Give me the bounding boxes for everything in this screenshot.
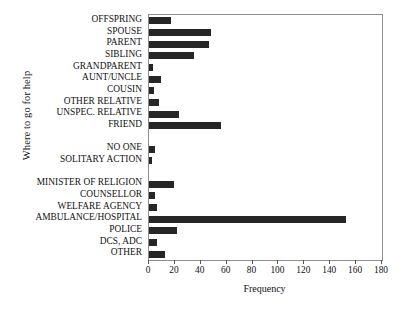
bar [149,29,211,36]
x-axis-tick-mark [148,260,149,264]
x-axis-tick-label: 180 [361,265,401,275]
bar [149,216,346,223]
bar [149,239,157,246]
bar [149,192,155,199]
y-axis-tick-label: PARENT [27,38,142,47]
bar [149,146,155,153]
y-axis-tick-label: OTHER [27,248,142,257]
bar [149,76,161,83]
y-axis-tick-label: COUSIN [27,85,142,94]
y-axis-tick-label: SIBLING [27,50,142,59]
x-axis-tick-mark [355,260,356,264]
y-axis-tick-label: NO ONE [27,143,142,152]
x-axis-tick-mark [174,260,175,264]
bar [149,227,177,234]
x-axis-tick-mark [277,260,278,264]
bar-series [149,15,382,260]
y-axis-tick-label: SPOUSE [27,27,142,36]
y-axis-tick-label: FRIEND [27,120,142,129]
y-axis-tick-label: WELFARE AGENCY [27,202,142,211]
x-axis-ticks: 020406080100120140160180 [148,260,381,282]
bar [149,99,159,106]
bar [149,122,221,129]
y-axis-tick-label: UNSPEC. RELATIVE [27,108,142,117]
bar-chart-figure: Where to go for help OFFSPRINGSPOUSEPARE… [0,0,406,310]
y-axis-tick-label: GRANDPARENT [27,62,142,71]
bar [149,87,154,94]
y-axis-category-labels: OFFSPRINGSPOUSEPARENTSIBLINGGRANDPARENTA… [30,14,145,259]
x-axis-tick-mark [381,260,382,264]
bar [149,157,152,164]
y-axis-tick-label: AUNT/UNCLE [27,73,142,82]
y-axis-tick-label: OFFSPRING [27,15,142,24]
x-axis-tick-mark [226,260,227,264]
x-axis-tick-mark [200,260,201,264]
y-axis-tick-label: OTHER RELATIVE [27,97,142,106]
bar [149,111,179,118]
bar [149,64,153,71]
bar [149,41,209,48]
y-axis-tick-label: COUNSELLOR [27,190,142,199]
y-axis-tick-label: MINISTER OF RELIGION [27,178,142,187]
y-axis-tick-label: AMBULANCE/HOSPITAL [27,213,142,222]
x-axis-title: Frequency [148,283,381,294]
bar [149,17,171,24]
x-axis-tick-mark [303,260,304,264]
x-axis-tick-mark [252,260,253,264]
y-axis-tick-label: SOLITARY ACTION [27,155,142,164]
bar [149,204,157,211]
y-axis-tick-label: POLICE [27,225,142,234]
plot-area [148,14,383,261]
bar [149,181,174,188]
bar [149,52,194,59]
bar [149,251,165,258]
y-axis-tick-label: DCS, ADC [27,237,142,246]
x-axis-tick-mark [329,260,330,264]
